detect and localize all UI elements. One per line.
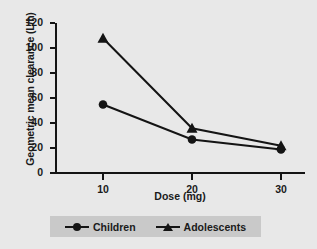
x-tick-10 bbox=[102, 174, 104, 180]
chart-figure: Geometric mean clearance (L/h) 0 20 40 6… bbox=[0, 0, 317, 249]
y-tick-label-60: 60 bbox=[31, 91, 43, 103]
y-tick-label-80: 80 bbox=[31, 66, 43, 78]
y-tick-label-0: 0 bbox=[37, 166, 43, 178]
legend-item-children[interactable]: Children bbox=[65, 221, 136, 233]
x-tick-30 bbox=[280, 174, 282, 180]
plot-area: 0 20 40 60 80 100 120 10 20 30 bbox=[55, 23, 305, 173]
x-axis-line bbox=[55, 172, 305, 174]
y-tick-40: 40 bbox=[50, 122, 55, 124]
legend-label-children: Children bbox=[93, 221, 136, 233]
y-tick-60: 60 bbox=[50, 97, 55, 99]
x-axis-title: Dose (mg) bbox=[55, 190, 305, 202]
triangle-marker-icon bbox=[156, 221, 180, 233]
y-tick-label-120: 120 bbox=[25, 16, 43, 28]
y-tick-120: 120 bbox=[50, 22, 55, 24]
legend-label-adolescents: Adolescents bbox=[184, 221, 246, 233]
y-tick-label-40: 40 bbox=[31, 116, 43, 128]
legend-item-adolescents[interactable]: Adolescents bbox=[156, 221, 246, 233]
y-tick-100: 100 bbox=[50, 47, 55, 49]
chart-legend: Children Adolescents bbox=[50, 216, 261, 237]
y-tick-0: 0 bbox=[50, 172, 55, 174]
y-tick-20: 20 bbox=[50, 147, 55, 149]
x-tick-20 bbox=[191, 174, 193, 180]
circle-marker-icon bbox=[65, 221, 89, 233]
y-tick-label-100: 100 bbox=[25, 41, 43, 53]
y-axis-line bbox=[55, 23, 57, 174]
y-tick-label-20: 20 bbox=[31, 141, 43, 153]
y-tick-80: 80 bbox=[50, 72, 55, 74]
